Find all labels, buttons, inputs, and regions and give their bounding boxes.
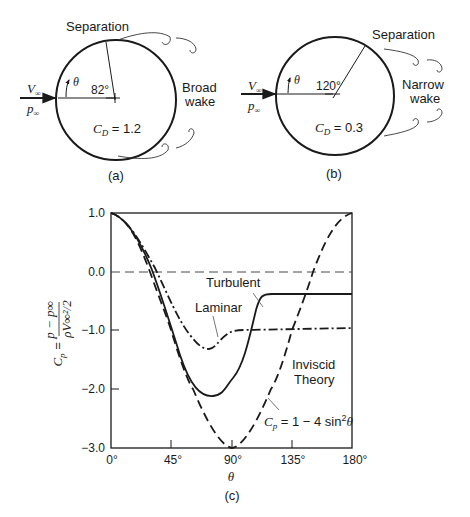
inviscid-formula: Cp = 1 − 4 sin2θ bbox=[264, 413, 354, 431]
inviscid-curve bbox=[111, 213, 352, 448]
svg-text:ρV∞²/2: ρV∞²/2 bbox=[59, 300, 74, 339]
wake-label-b-2: wake bbox=[409, 91, 440, 106]
pressure-label-b: p∞ bbox=[247, 98, 261, 115]
angle-label-a: 82° bbox=[91, 83, 109, 97]
laminar-leader bbox=[213, 316, 218, 337]
x-axis-label: θ bbox=[228, 469, 235, 484]
svg-text:Cp: Cp bbox=[50, 353, 67, 367]
xtick-0: 0° bbox=[106, 453, 118, 467]
y-axis-label: Cp = p − p∞ ρV∞²/2 bbox=[42, 300, 74, 367]
inviscid-leader bbox=[268, 398, 279, 410]
pressure-label-a: p∞ bbox=[26, 101, 40, 118]
svg-text:p − p∞: p − p∞ bbox=[42, 301, 57, 340]
separation-label-b: Separation bbox=[372, 27, 435, 42]
xtick-135: 135° bbox=[281, 453, 306, 467]
xtick-45: 45° bbox=[164, 453, 182, 467]
panel-c-chart: 1.0 0.0 −1.0 −2.0 −3.0 0° 45° 90° 135° 1… bbox=[42, 206, 368, 503]
angle-label-b: 120° bbox=[316, 79, 341, 93]
caption-b: (b) bbox=[326, 166, 342, 181]
ytick-1: 1.0 bbox=[88, 206, 105, 220]
ytick-0: 0.0 bbox=[88, 265, 105, 279]
panel-b: θ 120° Separation V∞ p∞ Narrow wake CD =… bbox=[241, 27, 445, 181]
cd-label-b: CD = 0.3 bbox=[315, 120, 363, 137]
wake-label-b-1: Narrow bbox=[402, 77, 445, 92]
x-ticks bbox=[171, 440, 292, 448]
velocity-label-b: V∞ bbox=[248, 78, 262, 95]
wake-label-a-2: wake bbox=[184, 94, 215, 109]
cylinder-a bbox=[56, 40, 176, 160]
inviscid-label-1: Inviscid bbox=[292, 357, 335, 372]
panel-a: θ 82° Separation V∞ p∞ Broad wake CD = 1… bbox=[20, 19, 217, 183]
wake-vortex-top-a bbox=[118, 33, 196, 53]
ytick-neg2: −2.0 bbox=[81, 382, 105, 396]
theta-arrow-icon bbox=[66, 80, 69, 97]
wake-label-a-1: Broad bbox=[182, 80, 217, 95]
xtick-180: 180° bbox=[343, 453, 368, 467]
cylinder-b bbox=[276, 37, 394, 155]
cd-label-a: CD = 1.2 bbox=[93, 121, 141, 138]
svg-text:=: = bbox=[50, 342, 65, 350]
theta-arrow-icon bbox=[288, 78, 290, 93]
turbulent-label: Turbulent bbox=[206, 275, 261, 290]
xtick-90: 90° bbox=[224, 453, 242, 467]
separation-label-a: Separation bbox=[66, 19, 129, 34]
plot-frame bbox=[111, 213, 352, 448]
theta-label-a: θ bbox=[73, 75, 79, 89]
y-ticks bbox=[111, 330, 119, 389]
wake-vortex-top-b bbox=[384, 49, 442, 72]
figure-canvas: θ 82° Separation V∞ p∞ Broad wake CD = 1… bbox=[0, 0, 470, 517]
velocity-label-a: V∞ bbox=[27, 81, 41, 98]
laminar-label: Laminar bbox=[195, 300, 243, 315]
inviscid-label-2: Theory bbox=[294, 372, 335, 387]
caption-c: (c) bbox=[224, 488, 239, 503]
ytick-neg3: −3.0 bbox=[81, 441, 105, 455]
ytick-neg1: −1.0 bbox=[81, 323, 105, 337]
theta-label-b: θ bbox=[294, 73, 300, 87]
wake-vortex-bottom-b bbox=[384, 109, 442, 136]
caption-a: (a) bbox=[108, 168, 124, 183]
